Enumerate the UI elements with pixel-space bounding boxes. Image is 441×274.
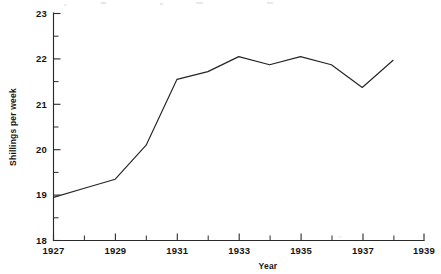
y-tick-label: 19 [36,189,47,200]
y-axis-title: Shillings per week [8,88,18,166]
y-tick-label: 22 [36,53,47,64]
chart-figure: 18 19 20 21 22 23 1927 1929 1 [0,0,441,274]
y-tick-label: 20 [36,144,47,155]
y-axis-tick-labels: 18 19 20 21 22 23 [36,8,47,246]
x-axis-title: Year [259,261,278,271]
scan-artifacts [64,2,342,238]
x-tick-label: 1937 [352,245,374,256]
data-series-line [54,57,394,198]
x-tick-label: 1935 [290,245,312,256]
x-tick-label: 1939 [413,245,435,256]
x-tick-label: 1933 [228,245,250,256]
y-axis-ticks [54,14,61,241]
x-tick-label: 1929 [104,245,126,256]
x-axis-tick-labels: 1927 1929 1931 1933 1935 1937 1939 [43,245,435,256]
x-axis-ticks [54,234,425,241]
line-chart: 18 19 20 21 22 23 1927 1929 1 [0,0,441,274]
y-tick-label: 21 [36,99,47,110]
x-tick-label: 1931 [166,245,188,256]
x-tick-label: 1927 [43,245,65,256]
y-tick-label: 23 [36,8,47,19]
